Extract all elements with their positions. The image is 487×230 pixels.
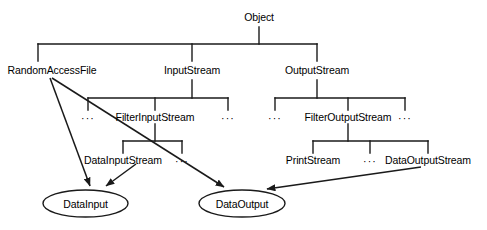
ellipsis-inputstream-left: ··· — [81, 113, 95, 124]
ellipsis-outputstream-right: ··· — [398, 113, 412, 124]
node-input-stream: InputStream — [164, 65, 220, 76]
implements-arrows — [50, 78, 421, 189]
node-print-stream: PrintStream — [286, 155, 340, 166]
node-filter-output-stream: FilterOutputStream — [305, 112, 392, 123]
node-output-stream: OutputStream — [285, 65, 349, 76]
arrow-datainputstream-to-datainput — [106, 164, 136, 186]
node-filter-input-stream: FilterInputStream — [116, 112, 195, 123]
label-datainput: DataInput — [63, 198, 108, 209]
node-random-access-file: RandomAccessFile — [8, 65, 97, 76]
class-hierarchy-diagram: Object RandomAccessFile InputStream Outp… — [0, 0, 487, 230]
arrow-dataoutputstream-to-dataoutput — [267, 167, 421, 189]
ellipsis-inputstream-right: ··· — [221, 113, 235, 124]
ellipsis-filterinputstream-right: ··· — [175, 156, 189, 167]
ellipsis-filteroutputstream-mid: ··· — [363, 156, 377, 167]
tree-connector-lines — [38, 27, 428, 153]
diagram-connectors — [0, 0, 487, 230]
arrow-randomaccessfile-to-datainput — [50, 78, 90, 186]
arrow-randomaccessfile-to-dataoutput — [52, 78, 224, 187]
label-dataoutput: DataOutput — [216, 198, 269, 209]
node-object: Object — [244, 12, 274, 23]
ellipsis-outputstream-left: ··· — [268, 113, 282, 124]
node-data-input-stream: DataInputStream — [84, 155, 162, 166]
node-data-output-stream: DataOutputStream — [385, 155, 471, 166]
